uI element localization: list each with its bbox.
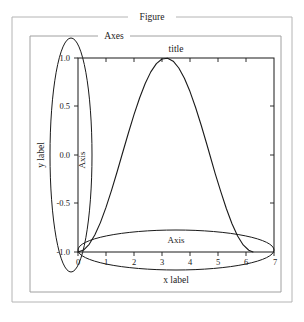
figure-frame-border-right	[12, 17, 292, 302]
plot-title: title	[169, 44, 184, 54]
x-tick-label: 5	[216, 257, 220, 267]
x-axis-name-label: Axis	[167, 235, 185, 245]
axes-frame-label: Axes	[104, 31, 124, 41]
y-tick-label: 0.5	[59, 101, 70, 111]
figure-root: Figure Axes title	[0, 0, 304, 322]
x-axis-label: x label	[163, 275, 189, 285]
y-tick-label: 0.0	[59, 150, 70, 160]
plot-spines	[78, 58, 274, 252]
x-tick-label: 2	[132, 257, 136, 267]
y-tick-marks	[74, 58, 274, 252]
y-tick-labels: 1.0 0.5 0.0 -0.5 -1.0	[57, 53, 70, 257]
y-tick-label: 1.0	[59, 53, 70, 63]
x-tick-label: 4	[188, 257, 193, 267]
figure-frame-label: Figure	[140, 12, 165, 22]
figure-frame	[12, 17, 292, 302]
x-tick-labels: 0 1 2 3 4 5 6 7	[76, 257, 277, 267]
x-tick-marks	[78, 58, 274, 256]
y-axis-name-label: Axis	[77, 151, 87, 169]
x-tick-label: 6	[244, 257, 248, 267]
y-axis-label: y label	[36, 142, 46, 168]
anatomy-of-a-figure-svg: Figure Axes title	[0, 0, 304, 322]
data-series-curve	[78, 58, 253, 252]
x-tick-label: 7	[273, 257, 277, 267]
line-series-path	[78, 58, 253, 252]
x-tick-label: 1	[104, 257, 108, 267]
y-tick-label: -0.5	[57, 198, 70, 208]
x-tick-label: 3	[160, 257, 164, 267]
axes-spine-box	[78, 58, 274, 252]
